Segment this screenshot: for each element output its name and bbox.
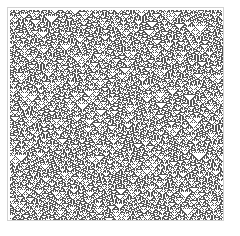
cellular-automaton-frame: [7, 7, 224, 221]
figure-root: [0, 0, 240, 236]
cellular-automaton-raster: [10, 10, 223, 220]
